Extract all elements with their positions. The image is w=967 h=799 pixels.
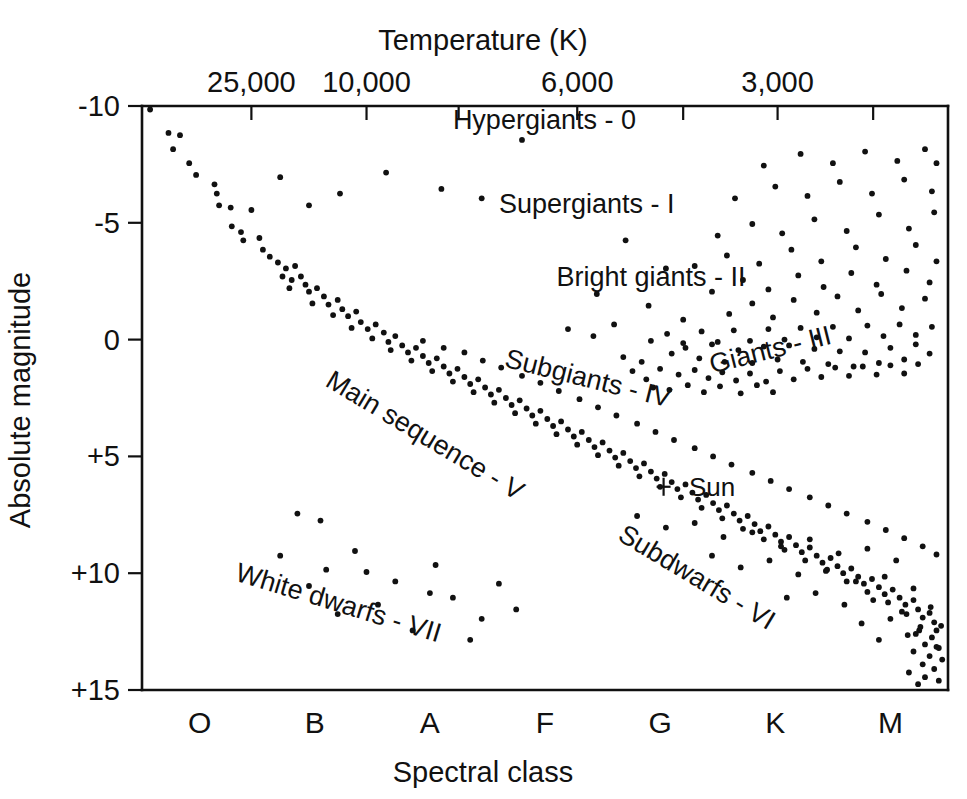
star-point: [439, 186, 445, 192]
star-point: [770, 315, 776, 321]
star-point: [467, 637, 473, 643]
star-point: [888, 345, 894, 351]
star-point: [678, 494, 684, 500]
star-point: [791, 376, 797, 382]
star-point: [874, 372, 880, 378]
star-point: [862, 350, 868, 356]
star-point: [844, 511, 850, 517]
star-point: [766, 326, 772, 332]
star-point: [592, 444, 598, 450]
star-point: [903, 602, 909, 608]
star-point: [928, 604, 934, 610]
star-point: [653, 429, 659, 435]
star-point: [869, 191, 875, 197]
star-point: [519, 137, 525, 143]
star-point: [844, 579, 850, 585]
star-point: [238, 229, 244, 235]
top-tick-label: 6,000: [541, 66, 614, 98]
star-point: [934, 628, 940, 634]
star-point: [881, 333, 887, 339]
star-point: [922, 674, 928, 680]
star-point: [706, 375, 712, 381]
star-point: [749, 470, 755, 476]
star-point: [696, 355, 702, 361]
annotation-subgiants: Subgiants - IV: [502, 343, 674, 413]
star-point: [310, 301, 316, 307]
star-point: [685, 382, 691, 388]
star-point: [306, 289, 312, 295]
star-point: [358, 319, 364, 325]
star-point: [931, 619, 937, 625]
star-point: [716, 507, 722, 513]
spectral-class-label-b: B: [305, 706, 325, 739]
star-point: [306, 202, 312, 208]
annotation-supergiants: Supergiants - I: [499, 189, 675, 219]
star-point: [812, 216, 818, 222]
sun-label: Sun: [689, 472, 735, 502]
star-point: [800, 359, 806, 365]
star-point: [467, 381, 473, 387]
star-point: [724, 503, 730, 509]
star-point: [844, 228, 850, 234]
star-point: [927, 653, 933, 659]
star-point: [257, 235, 263, 241]
star-point: [611, 322, 617, 328]
star-point: [692, 445, 698, 451]
star-point: [595, 452, 601, 458]
star-point: [721, 534, 727, 540]
star-point: [860, 364, 866, 370]
star-point: [345, 313, 351, 319]
star-point: [147, 107, 153, 113]
star-point: [574, 442, 580, 448]
star-point: [409, 358, 415, 364]
star-point: [929, 635, 935, 641]
star-point: [365, 326, 371, 332]
star-point: [897, 322, 903, 328]
star-point: [565, 326, 571, 332]
star-point: [724, 253, 730, 259]
star-point: [623, 237, 629, 243]
star-point: [249, 207, 255, 213]
star-point: [929, 324, 935, 330]
star-point: [434, 355, 440, 361]
star-point: [846, 373, 852, 379]
star-point: [738, 390, 744, 396]
star-point: [830, 324, 836, 330]
star-point: [820, 560, 826, 566]
star-point: [676, 372, 682, 378]
left-tick-label: 0: [104, 324, 120, 356]
star-point: [901, 177, 907, 183]
star-point: [479, 195, 485, 201]
star-point: [818, 374, 824, 380]
star-point: [795, 273, 801, 279]
star-point: [529, 413, 535, 419]
star-point: [786, 534, 792, 540]
star-point: [641, 461, 647, 467]
star-point: [733, 378, 739, 384]
star-point: [287, 285, 293, 291]
star-point: [680, 340, 686, 346]
star-point: [386, 339, 392, 345]
star-point: [911, 649, 917, 655]
star-point: [920, 543, 926, 549]
star-point: [848, 270, 854, 276]
star-point: [807, 536, 813, 542]
star-point: [832, 365, 838, 371]
star-point: [669, 351, 675, 357]
left-tick-labels: -10-50+5+10+15: [71, 90, 120, 706]
star-point: [888, 362, 894, 368]
star-point: [337, 191, 343, 197]
star-point: [509, 402, 515, 408]
star-point: [934, 552, 940, 558]
star-point: [899, 305, 905, 311]
star-point: [657, 366, 663, 372]
star-point: [906, 226, 912, 232]
star-point: [612, 455, 618, 461]
star-point: [920, 661, 926, 667]
star-point: [556, 388, 562, 394]
star-point: [766, 524, 772, 530]
star-point: [761, 536, 767, 542]
star-point: [791, 297, 797, 303]
star-point: [795, 572, 801, 578]
star-point: [876, 212, 882, 218]
